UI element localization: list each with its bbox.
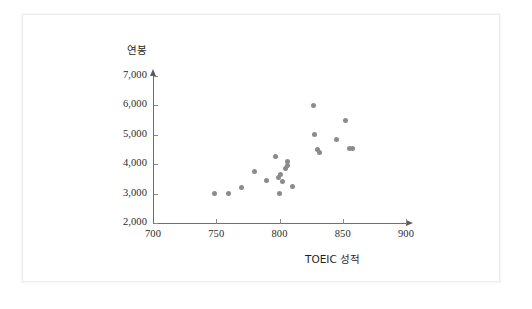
data-point — [317, 150, 322, 155]
x-axis-arrow-icon — [406, 220, 413, 226]
scatter-plot: 연봉 TOEIC 성적 2,0003,0004,0005,0006,0007,0… — [23, 15, 501, 283]
y-tick-label: 3,000 — [101, 187, 147, 198]
y-axis-arrow-icon — [150, 69, 156, 76]
y-axis-title: 연봉 — [127, 42, 147, 57]
page-root: 연봉 TOEIC 성적 2,0003,0004,0005,0006,0007,0… — [0, 0, 532, 309]
x-tick-label: 900 — [386, 228, 426, 239]
data-point — [312, 132, 317, 137]
data-point — [226, 191, 231, 196]
data-point — [334, 137, 339, 142]
y-tick-mark — [154, 194, 158, 195]
data-point — [239, 185, 244, 190]
y-tick-mark — [154, 135, 158, 136]
x-tick-mark — [216, 219, 217, 224]
x-tick-label: 850 — [323, 228, 363, 239]
y-tick-label: 7,000 — [101, 69, 147, 80]
x-tick-mark — [280, 219, 281, 224]
data-point — [278, 172, 283, 177]
y-tick-mark — [154, 223, 158, 224]
x-tick-mark — [406, 219, 407, 224]
y-tick-mark — [154, 105, 158, 106]
y-tick-label: 2,000 — [101, 216, 147, 227]
x-axis-title: TOEIC 성적 — [305, 251, 360, 266]
x-tick-label: 800 — [260, 228, 300, 239]
y-tick-label: 6,000 — [101, 98, 147, 109]
data-point — [264, 178, 269, 183]
y-tick-label: 5,000 — [101, 128, 147, 139]
data-point — [350, 146, 355, 151]
data-point — [212, 191, 217, 196]
y-tick-mark — [154, 76, 158, 77]
data-point — [252, 169, 257, 174]
y-tick-mark — [154, 164, 158, 165]
x-tick-mark — [343, 219, 344, 224]
y-axis-line — [153, 76, 154, 224]
data-point — [290, 184, 295, 189]
x-tick-label: 750 — [196, 228, 236, 239]
data-point — [285, 163, 290, 168]
data-point — [277, 191, 282, 196]
data-point — [343, 118, 348, 123]
data-point — [273, 154, 278, 159]
data-point — [311, 103, 316, 108]
data-point — [280, 179, 285, 184]
figure-frame: 연봉 TOEIC 성적 2,0003,0004,0005,0006,0007,0… — [22, 14, 500, 282]
y-tick-label: 4,000 — [101, 157, 147, 168]
x-tick-label: 700 — [133, 228, 173, 239]
